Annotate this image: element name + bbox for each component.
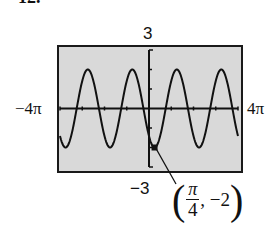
x-min-label: −4π [15,100,42,117]
point-annotation: ( π 4 , −2 ) [172,176,243,224]
y-min-label: −3 [130,180,149,197]
point-y-value: , −2 [200,189,230,211]
y-max-label: 3 [143,25,152,42]
fraction-denominator: 4 [188,200,198,221]
x-min-text: −4π [15,99,42,118]
open-paren: ( [172,179,185,221]
fraction-numerator: π [186,180,199,200]
x-max-text: 4π [247,99,264,118]
fraction: π 4 [186,180,199,221]
x-max-label: 4π [247,100,264,117]
close-paren: ) [230,179,243,221]
